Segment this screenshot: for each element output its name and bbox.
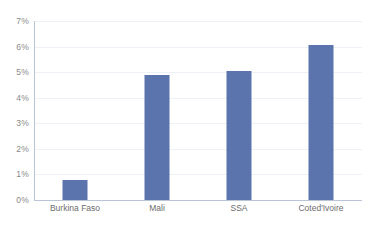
x-axis-tick-label: Burkina Faso	[34, 204, 116, 213]
y-axis-tick-label: 2%	[3, 145, 29, 154]
bar[interactable]	[63, 180, 88, 200]
plot-area	[34, 21, 362, 200]
bar-slot	[280, 21, 362, 200]
bar[interactable]	[145, 75, 170, 200]
bar-slot	[198, 21, 280, 200]
x-axis-tick-label: SSA	[198, 204, 280, 213]
bar-slot	[34, 21, 116, 200]
y-axis-tick-label: 0%	[3, 196, 29, 205]
x-axis-tick-label: Coted'Ivoire	[280, 204, 362, 213]
bar-chart: 0%1%2%3%4%5%6%7% Burkina FasoMaliSSACote…	[0, 0, 368, 227]
y-axis-tick-label: 5%	[3, 68, 29, 77]
y-axis-tick-label: 4%	[3, 94, 29, 103]
bar[interactable]	[227, 71, 252, 200]
y-axis-tick-label: 1%	[3, 170, 29, 179]
bar[interactable]	[309, 45, 334, 200]
x-axis-tick-label: Mali	[116, 204, 198, 213]
y-axis-tick-label: 7%	[3, 17, 29, 26]
y-axis-tick-label: 6%	[3, 43, 29, 52]
bar-slot	[116, 21, 198, 200]
x-axis-line	[34, 200, 362, 201]
y-axis-tick-label: 3%	[3, 119, 29, 128]
